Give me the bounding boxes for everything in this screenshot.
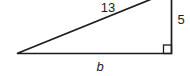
right-angle-marker <box>164 45 172 54</box>
right-triangle-figure: 13 5 b <box>0 0 190 76</box>
hypotenuse-label: 13 <box>101 1 115 14</box>
triangle-drawing <box>0 0 190 76</box>
vertical-side-label: 5 <box>177 13 184 26</box>
triangle-outline <box>17 0 172 54</box>
base-label: b <box>96 60 103 73</box>
